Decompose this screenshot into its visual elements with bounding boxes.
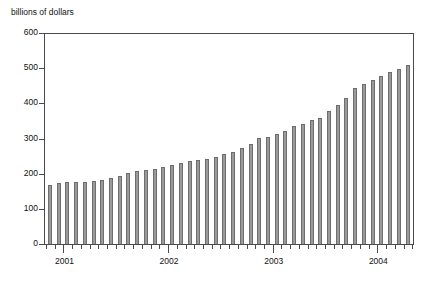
- x-axis-tick-label: 2003: [254, 256, 294, 266]
- x-axis-minor-tick: [238, 245, 239, 249]
- x-axis-major-tick: [63, 245, 64, 253]
- bar: [179, 163, 183, 244]
- x-axis-major-tick: [168, 245, 169, 253]
- bar: [397, 69, 401, 244]
- bar: [161, 167, 165, 244]
- x-axis-tick-label: 2001: [44, 256, 84, 266]
- bar: [170, 165, 174, 244]
- bar: [144, 170, 148, 244]
- x-axis-minor-tick: [316, 245, 317, 249]
- bar: [353, 88, 357, 244]
- x-axis-minor-tick: [247, 245, 248, 249]
- x-axis-minor-tick: [404, 245, 405, 249]
- y-axis-tick-label: 500: [0, 63, 38, 72]
- x-axis-minor-tick: [124, 245, 125, 249]
- x-axis-minor-tick: [159, 245, 160, 249]
- bar-series: [45, 34, 413, 244]
- x-axis-minor-tick: [325, 245, 326, 249]
- bar: [205, 159, 209, 244]
- x-axis-tick-label: 2002: [149, 256, 189, 266]
- bar: [240, 148, 244, 244]
- y-axis-tick-label: 300: [0, 134, 38, 143]
- x-axis-minor-tick: [151, 245, 152, 249]
- x-axis-minor-tick: [290, 245, 291, 249]
- x-axis-minor-tick: [116, 245, 117, 249]
- bar: [275, 134, 279, 244]
- bar: [249, 144, 253, 244]
- y-axis-tick-label: 600: [0, 28, 38, 37]
- y-axis-tick-label: 0: [0, 239, 38, 248]
- x-axis-minor-tick: [360, 245, 361, 249]
- x-axis-minor-tick: [369, 245, 370, 249]
- x-axis-minor-tick: [107, 245, 108, 249]
- bar: [109, 178, 113, 244]
- bar-chart: billions of dollars 6005004003002001000 …: [0, 0, 445, 281]
- x-axis-minor-tick: [177, 245, 178, 249]
- bar: [310, 120, 314, 244]
- x-axis-minor-tick: [55, 245, 56, 249]
- bar: [118, 176, 122, 244]
- bar: [344, 98, 348, 244]
- x-axis-minor-tick: [386, 245, 387, 249]
- y-axis-tick-label: 200: [0, 169, 38, 178]
- bar: [362, 84, 366, 244]
- y-axis-tick-label: 400: [0, 98, 38, 107]
- x-axis-major-tick: [273, 245, 274, 253]
- bar: [153, 169, 157, 244]
- x-axis-minor-tick: [142, 245, 143, 249]
- x-axis-minor-tick: [220, 245, 221, 249]
- bar: [57, 183, 61, 244]
- x-axis-minor-tick: [334, 245, 335, 249]
- bar: [406, 65, 410, 244]
- bar: [292, 126, 296, 244]
- bar: [379, 76, 383, 244]
- bar: [83, 182, 87, 244]
- x-axis-minor-tick: [395, 245, 396, 249]
- x-axis-minor-tick: [281, 245, 282, 249]
- x-axis-minor-tick: [255, 245, 256, 249]
- bar: [222, 154, 226, 244]
- bar: [327, 111, 331, 244]
- x-axis-minor-tick: [212, 245, 213, 249]
- x-axis-minor-tick: [342, 245, 343, 249]
- x-axis-minor-tick: [299, 245, 300, 249]
- x-axis-minor-tick: [72, 245, 73, 249]
- x-axis-minor-tick: [186, 245, 187, 249]
- bar: [74, 182, 78, 244]
- bar: [48, 185, 52, 244]
- x-axis-minor-tick: [46, 245, 47, 249]
- bar: [301, 124, 305, 244]
- bar: [188, 161, 192, 244]
- bar: [388, 72, 392, 244]
- x-axis-minor-tick: [203, 245, 204, 249]
- bar: [318, 118, 322, 244]
- x-axis-minor-tick: [133, 245, 134, 249]
- x-axis-minor-tick: [98, 245, 99, 249]
- bar: [65, 182, 69, 244]
- bar: [283, 131, 287, 244]
- y-axis-tick-label: 100: [0, 204, 38, 213]
- bar: [371, 80, 375, 244]
- x-axis-minor-tick: [351, 245, 352, 249]
- bar: [214, 157, 218, 245]
- bar: [126, 173, 130, 244]
- bar: [100, 180, 104, 244]
- x-axis-minor-tick: [308, 245, 309, 249]
- bar: [336, 105, 340, 244]
- bar: [135, 171, 139, 244]
- x-axis-tick-label: 2004: [358, 256, 398, 266]
- x-axis-minor-tick: [412, 245, 413, 249]
- x-axis-minor-tick: [90, 245, 91, 249]
- x-axis-minor-tick: [264, 245, 265, 249]
- bar: [196, 160, 200, 244]
- bar: [92, 181, 96, 244]
- bar: [266, 137, 270, 244]
- x-axis-minor-tick: [81, 245, 82, 249]
- x-axis-ticks: [44, 245, 414, 253]
- bar: [257, 138, 261, 244]
- chart-axis-title: billions of dollars: [11, 7, 74, 17]
- x-axis-minor-tick: [194, 245, 195, 249]
- x-axis-minor-tick: [229, 245, 230, 249]
- bar: [231, 152, 235, 244]
- x-axis-major-tick: [377, 245, 378, 253]
